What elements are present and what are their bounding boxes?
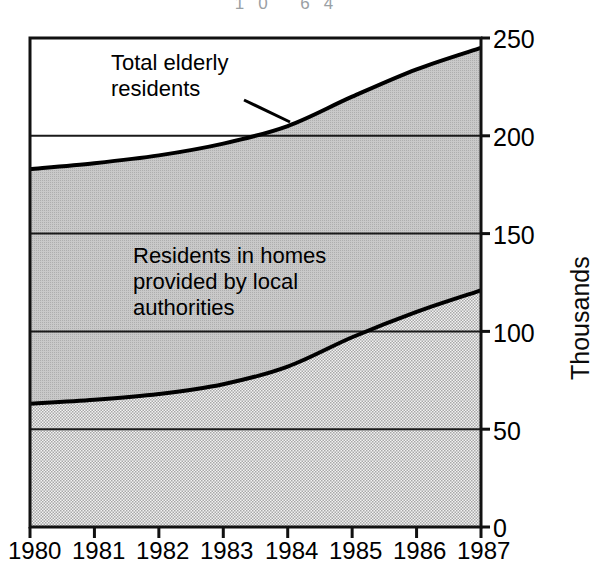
x-tick-label-1982: 1982 xyxy=(136,537,189,564)
y-tick-label-100: 100 xyxy=(493,319,535,348)
y-tick-label-150: 150 xyxy=(493,221,535,250)
x-tick-label-1984: 1984 xyxy=(265,537,318,564)
annotation-local-authority-line3: authorities xyxy=(133,295,235,320)
x-tick-label-1987: 1987 xyxy=(457,537,510,564)
annotation-total-elderly-line1: Total elderly xyxy=(111,50,228,75)
x-tick-label-1986: 1986 xyxy=(393,537,446,564)
annotation-total-elderly-line2: residents xyxy=(111,76,200,101)
x-tick-label-1980: 1980 xyxy=(8,537,61,564)
annotation-local-authority-line2: provided by local xyxy=(133,269,298,294)
y-tick-label-250: 250 xyxy=(493,25,535,54)
y-tick-label-200: 200 xyxy=(493,123,535,152)
x-tick-label-1981: 1981 xyxy=(72,537,125,564)
y-tick-label-50: 50 xyxy=(493,417,521,446)
y-axis-title: Thousands xyxy=(566,256,594,380)
x-tick-label-1985: 1985 xyxy=(329,537,382,564)
annotation-local-authority-line1: Residents in homes xyxy=(133,243,326,268)
x-tick-label-1983: 1983 xyxy=(200,537,253,564)
